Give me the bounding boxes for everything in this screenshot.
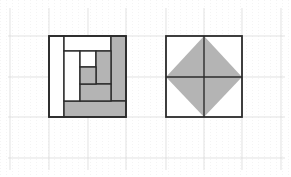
right-strip-region [111,36,126,101]
center-square-region [80,67,96,84]
inner-top-strip-region [80,51,96,67]
left-strip-region [49,36,64,117]
bottom-strip-region [64,101,126,117]
top-strip-region [64,36,111,51]
inner-right-strip-region [96,51,111,84]
diamond-square-figure [166,36,242,117]
diagram-canvas [0,0,291,177]
inner-left-strip-region [64,51,80,101]
log-cabin-square-figure [49,36,126,117]
inner-bottom-strip-region [80,84,111,101]
background-grid [1,0,289,177]
